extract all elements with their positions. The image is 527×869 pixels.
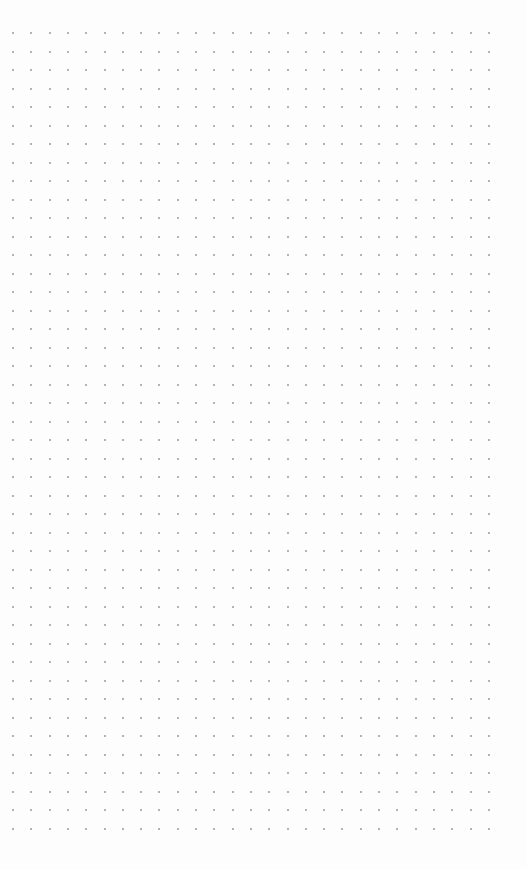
grid-dot	[415, 587, 417, 589]
grid-dot	[67, 643, 69, 645]
grid-dot	[67, 32, 69, 34]
grid-dot	[451, 680, 453, 682]
grid-dot	[451, 698, 453, 700]
grid-dot	[341, 199, 343, 201]
grid-dot	[158, 69, 160, 71]
grid-dot	[305, 587, 307, 589]
grid-dot	[213, 476, 215, 478]
grid-dot	[213, 717, 215, 719]
grid-dot	[195, 347, 197, 349]
grid-dot	[122, 32, 124, 34]
grid-dot	[305, 402, 307, 404]
grid-dot	[360, 180, 362, 182]
grid-dot	[451, 291, 453, 293]
grid-dot	[323, 236, 325, 238]
grid-dot	[341, 106, 343, 108]
grid-dot	[396, 772, 398, 774]
grid-dot	[158, 328, 160, 330]
grid-dot	[122, 809, 124, 811]
grid-dot	[396, 236, 398, 238]
grid-dot	[49, 735, 51, 737]
grid-dot	[140, 643, 142, 645]
dot-grid-canvas[interactable]	[0, 0, 527, 869]
grid-dot	[396, 88, 398, 90]
grid-dot	[415, 550, 417, 552]
grid-dot	[213, 291, 215, 293]
grid-dot	[250, 735, 252, 737]
grid-dot	[433, 458, 435, 460]
grid-dot	[67, 106, 69, 108]
grid-dot	[140, 754, 142, 756]
grid-dot	[268, 402, 270, 404]
grid-dot	[378, 32, 380, 34]
grid-dot	[323, 217, 325, 219]
grid-dot	[268, 69, 270, 71]
grid-dot	[470, 698, 472, 700]
grid-dot	[360, 513, 362, 515]
grid-dot	[305, 88, 307, 90]
grid-dot	[268, 680, 270, 682]
grid-dot	[287, 624, 289, 626]
grid-dot	[85, 624, 87, 626]
grid-dot	[122, 458, 124, 460]
grid-dot	[12, 384, 14, 386]
grid-dot	[158, 217, 160, 219]
grid-dot	[104, 809, 106, 811]
grid-dot	[287, 88, 289, 90]
grid-dot	[470, 273, 472, 275]
grid-dot	[67, 606, 69, 608]
grid-dot	[49, 680, 51, 682]
grid-dot	[49, 828, 51, 830]
grid-dot	[158, 51, 160, 53]
grid-dot	[49, 754, 51, 756]
grid-dot	[122, 125, 124, 127]
grid-dot	[268, 717, 270, 719]
grid-dot	[488, 772, 490, 774]
grid-dot	[67, 513, 69, 515]
grid-dot	[470, 199, 472, 201]
grid-dot	[177, 402, 179, 404]
grid-dot	[122, 365, 124, 367]
grid-dot	[122, 495, 124, 497]
grid-dot	[195, 458, 197, 460]
grid-dot	[470, 384, 472, 386]
grid-dot	[341, 698, 343, 700]
grid-dot	[341, 661, 343, 663]
grid-dot	[12, 32, 14, 34]
grid-dot	[177, 661, 179, 663]
grid-dot	[433, 809, 435, 811]
grid-dot	[85, 587, 87, 589]
grid-dot	[30, 421, 32, 423]
grid-dot	[213, 51, 215, 53]
grid-dot	[305, 550, 307, 552]
grid-dot	[30, 458, 32, 460]
grid-dot	[323, 143, 325, 145]
grid-dot	[158, 32, 160, 34]
grid-dot	[250, 347, 252, 349]
grid-dot	[415, 495, 417, 497]
grid-dot	[158, 772, 160, 774]
grid-dot	[287, 661, 289, 663]
grid-dot	[250, 125, 252, 127]
grid-dot	[85, 643, 87, 645]
grid-dot	[67, 532, 69, 534]
grid-dot	[30, 772, 32, 774]
grid-dot	[415, 828, 417, 830]
grid-dot	[305, 384, 307, 386]
grid-dot	[232, 458, 234, 460]
grid-dot	[49, 569, 51, 571]
grid-dot	[30, 476, 32, 478]
grid-dot	[488, 439, 490, 441]
grid-dot	[104, 273, 106, 275]
grid-dot	[85, 310, 87, 312]
grid-dot	[250, 791, 252, 793]
grid-dot	[12, 772, 14, 774]
grid-dot	[268, 532, 270, 534]
grid-dot	[451, 421, 453, 423]
grid-dot	[451, 384, 453, 386]
grid-dot	[213, 328, 215, 330]
grid-dot	[195, 51, 197, 53]
grid-dot	[232, 32, 234, 34]
grid-dot	[232, 421, 234, 423]
grid-dot	[415, 513, 417, 515]
